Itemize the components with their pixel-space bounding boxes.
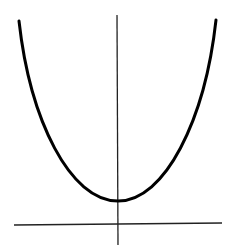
graph-figure: [0, 0, 233, 248]
graph-canvas: [0, 0, 233, 248]
y-axis: [117, 15, 118, 245]
